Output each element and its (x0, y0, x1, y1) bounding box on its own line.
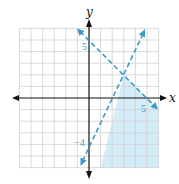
x-axis-right-arrow-icon (160, 95, 167, 101)
x-axis-label: x (169, 91, 176, 105)
tick-label-y-neg4: −4 (74, 137, 85, 148)
graph: y x 5 5 −4 (0, 0, 179, 184)
y-axis-up-arrow-icon (86, 19, 92, 27)
y-axis-label: y (85, 5, 93, 19)
tick-label-x-5: 5 (141, 103, 146, 114)
x-axis-left-arrow-icon (12, 95, 19, 101)
tick-label-y-5: 5 (82, 41, 87, 52)
y-axis-down-arrow-icon (86, 171, 92, 179)
